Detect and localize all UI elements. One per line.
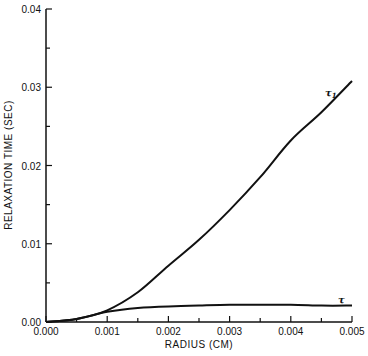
curves: [46, 81, 352, 322]
ticks: 0.0000.0010.0020.0030.0040.0050.000.010.…: [22, 4, 365, 337]
curve-tau1: [46, 81, 352, 322]
x-tick-label: 0.004: [278, 326, 303, 337]
x-tick-label: 0.001: [95, 326, 120, 337]
x-tick-label: 0.003: [217, 326, 242, 337]
curve-label-tau1: τ1: [325, 87, 337, 100]
y-tick-label: 0.00: [22, 317, 42, 328]
y-tick-label: 0.04: [22, 4, 42, 15]
x-tick-label: 0.005: [339, 326, 364, 337]
y-axis-title: RELAXATION TIME (SEC): [3, 100, 14, 230]
axes: [46, 9, 352, 322]
y-tick-label: 0.03: [22, 82, 42, 93]
relaxation-time-chart: 0.0000.0010.0020.0030.0040.0050.000.010.…: [0, 0, 368, 356]
y-tick-label: 0.02: [22, 161, 42, 172]
x-tick-label: 0.002: [156, 326, 181, 337]
y-tick-label: 0.01: [22, 239, 42, 250]
x-axis-title: RADIUS (CM): [165, 339, 233, 350]
curve-label-tau1-subscript: 1: [332, 91, 337, 100]
curve-label-tau: τ: [338, 294, 345, 305]
